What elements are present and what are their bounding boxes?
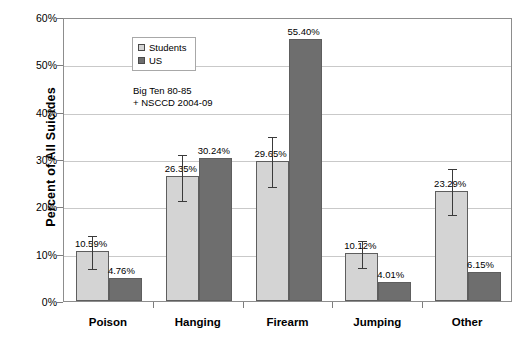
x-axis-tick-mark — [422, 302, 423, 308]
annotation-line: + NSCCD 2004-09 — [133, 97, 212, 109]
bar-value-label: 4.76% — [108, 265, 135, 276]
error-bar-cap-top — [88, 236, 97, 237]
error-bar — [452, 169, 453, 216]
legend-item-label: Students — [149, 42, 187, 53]
y-axis-tick-label: 20% — [9, 201, 57, 213]
legend-item-us[interactable]: US — [138, 54, 187, 67]
error-bar-cap-bottom — [268, 187, 277, 188]
annotation-line: Big Ten 80-85 — [133, 85, 212, 97]
chart-legend: StudentsUS — [132, 37, 196, 71]
error-bar-cap-top — [268, 137, 277, 138]
bar-us-jumping[interactable] — [378, 282, 411, 301]
x-axis-category-label: Other — [452, 316, 483, 328]
bar-us-hanging[interactable] — [199, 158, 232, 301]
y-axis-tick-label: 60% — [9, 12, 57, 24]
bar-value-label: 29.65% — [255, 148, 287, 159]
x-axis-tick-mark — [332, 302, 333, 308]
x-axis-category-label: Hanging — [175, 316, 221, 328]
bar-chart: Percent of All Suicides 0%10%20%30%40%50… — [0, 0, 526, 345]
x-axis-tick-mark — [243, 302, 244, 308]
bar-us-firearm[interactable] — [289, 39, 322, 301]
error-bar-cap-bottom — [88, 269, 97, 270]
bar-value-label: 10.59% — [75, 238, 107, 249]
error-bar-cap-bottom — [178, 201, 187, 202]
bar-group: 10.12%4.01% — [345, 19, 411, 301]
bar-us-other[interactable] — [468, 272, 501, 301]
plot-area: 10.59%4.76%26.35%30.24%29.65%55.40%10.12… — [63, 18, 512, 302]
chart-annotation: Big Ten 80-85+ NSCCD 2004-09 — [133, 85, 212, 109]
bar-value-label: 26.35% — [165, 163, 197, 174]
bar-group: 23.29%6.15% — [435, 19, 501, 301]
bar-value-label: 6.15% — [467, 259, 494, 270]
legend-swatch-icon — [138, 57, 145, 64]
legend-item-label: US — [149, 55, 162, 66]
bar-value-label: 55.40% — [288, 26, 320, 37]
y-axis-tick-label: 30% — [9, 154, 57, 166]
error-bar-cap-bottom — [448, 215, 457, 216]
error-bar — [92, 236, 93, 270]
error-bar-cap-bottom — [358, 268, 367, 269]
y-axis-tick-label: 10% — [9, 249, 57, 261]
bar-value-label: 23.29% — [434, 178, 466, 189]
x-axis-category-label: Firearm — [266, 316, 308, 328]
bar-value-label: 30.24% — [198, 145, 230, 156]
error-bar — [272, 137, 273, 188]
error-bar-cap-top — [358, 241, 367, 242]
x-axis-category-label: Jumping — [353, 316, 401, 328]
x-axis-category-label: Poison — [89, 316, 127, 328]
bar-value-label: 4.01% — [377, 269, 404, 280]
bar-us-poison[interactable] — [109, 278, 142, 301]
y-axis-tick-mark — [57, 302, 63, 303]
bar-group: 29.65%55.40% — [256, 19, 322, 301]
error-bar-cap-top — [448, 169, 457, 170]
error-bar — [362, 241, 363, 268]
error-bar — [182, 155, 183, 202]
error-bar-cap-top — [178, 155, 187, 156]
y-axis-tick-label: 0% — [9, 296, 57, 308]
legend-item-students[interactable]: Students — [138, 41, 187, 54]
x-axis-tick-mark — [153, 302, 154, 308]
legend-swatch-icon — [138, 44, 145, 51]
y-axis-tick-label: 40% — [9, 107, 57, 119]
y-axis-tick-label: 50% — [9, 59, 57, 71]
